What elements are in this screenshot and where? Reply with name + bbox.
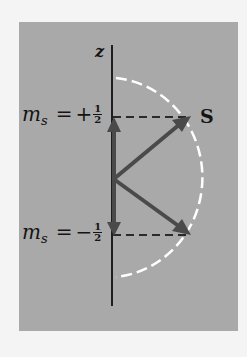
spin-diagram-graphic	[0, 0, 247, 357]
state-symbol: m	[22, 102, 41, 126]
state-subscript: s	[41, 113, 48, 128]
state-label-down: ms =−12	[22, 222, 102, 245]
equals-sign: =	[56, 102, 73, 126]
z-axis-label: z	[95, 44, 104, 60]
sign: +	[76, 102, 93, 126]
state-symbol: m	[22, 220, 41, 244]
diagram-stage: z S ms =+12 ms =−12	[0, 0, 247, 357]
sign: −	[76, 220, 93, 244]
spin-vector-label: S	[200, 107, 214, 126]
denominator: 2	[93, 233, 102, 243]
fraction: 12	[93, 104, 102, 125]
denominator: 2	[93, 115, 102, 125]
diagram-panel	[19, 22, 238, 331]
equals-sign: =	[56, 220, 73, 244]
state-subscript: s	[41, 231, 48, 246]
fraction: 12	[93, 222, 102, 243]
state-label-up: ms =+12	[22, 104, 102, 127]
